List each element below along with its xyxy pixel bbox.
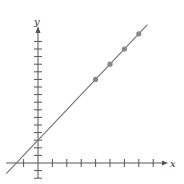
data-point <box>136 31 141 36</box>
data-point <box>107 62 112 67</box>
trend-line-path <box>6 25 147 174</box>
tick-marks <box>24 41 154 178</box>
chart: x y <box>0 0 184 184</box>
data-point <box>93 77 98 82</box>
y-axis-arrow-icon <box>36 26 41 33</box>
trend-line <box>6 25 147 174</box>
x-axis-label: x <box>170 158 176 169</box>
data-point <box>122 46 127 51</box>
axes <box>6 26 168 178</box>
x-axis-arrow-icon <box>162 161 168 166</box>
y-axis-label: y <box>33 16 40 27</box>
